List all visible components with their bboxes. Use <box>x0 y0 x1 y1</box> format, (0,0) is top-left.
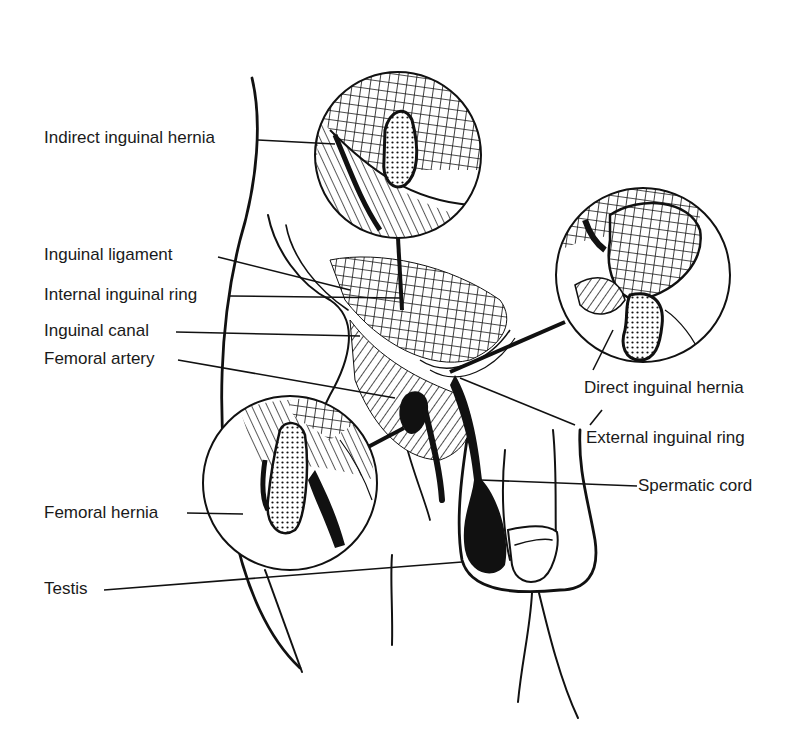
diagram-artwork <box>0 0 811 750</box>
label-indirect-inguinal-hernia: Indirect inguinal hernia <box>44 128 215 148</box>
label-external-inguinal-ring: External inguinal ring <box>586 428 745 448</box>
inset-femoral-hernia <box>203 396 377 570</box>
label-direct-inguinal-hernia: Direct inguinal hernia <box>584 378 744 398</box>
inset-indirect-hernia <box>310 60 490 240</box>
label-testis: Testis <box>44 579 87 599</box>
spermatic-cord-shape <box>450 375 506 573</box>
label-femoral-artery: Femoral artery <box>44 349 155 369</box>
label-spermatic-cord: Spermatic cord <box>638 476 752 496</box>
label-internal-inguinal-ring: Internal inguinal ring <box>44 285 197 305</box>
label-femoral-hernia: Femoral hernia <box>44 503 158 523</box>
inset-direct-hernia <box>555 187 730 362</box>
label-inguinal-canal: Inguinal canal <box>44 321 149 341</box>
label-inguinal-ligament: Inguinal ligament <box>44 245 173 265</box>
hernia-diagram: Indirect inguinal hernia Inguinal ligame… <box>0 0 811 750</box>
